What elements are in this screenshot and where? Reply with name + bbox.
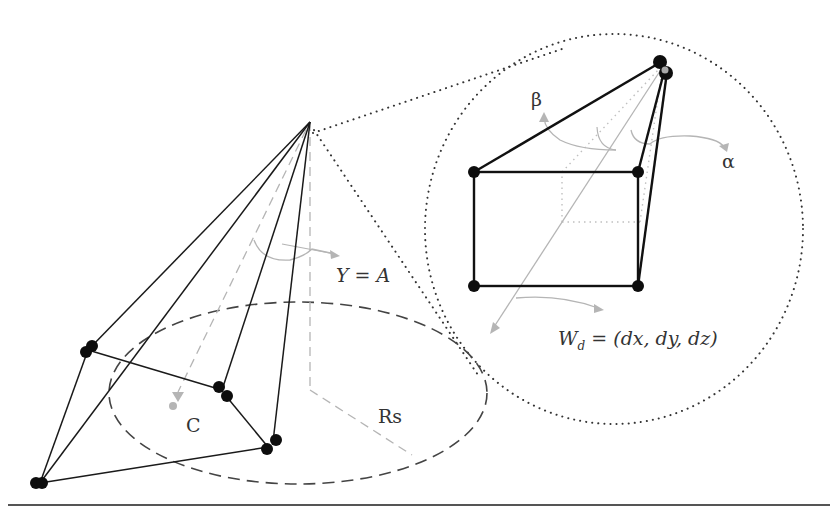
beta-arrow [544,118,616,150]
vertex-point [80,346,92,358]
apex-highlight-point [662,67,669,74]
label-alpha: α [722,150,735,172]
vertex-point [468,280,480,292]
vertex-point [632,280,644,292]
pyramid-vertices [30,340,282,489]
vertex-point [468,166,480,178]
magnifier-connector [313,48,565,375]
vertex-point [270,434,282,446]
guide-lines [178,122,412,455]
base-ellipse [109,302,487,484]
label-rs: Rs [378,405,402,427]
vertex-point [261,443,273,455]
centroid-point [169,402,177,410]
pyramid-diagram: Y = A C Rs β α Wd = (dx, dy, dz) [0,0,838,524]
label-y-equals-a: Y = A [336,264,390,286]
magnified-region-circle [425,34,803,424]
label-wd: Wd = (dx, dy, dz) [558,327,718,353]
label-c: C [186,414,201,436]
wd-arrow [516,297,598,308]
vertex-point [632,166,644,178]
label-beta: β [531,88,542,110]
vertex-point [36,477,48,489]
vertex-point [213,381,225,393]
c-arrowhead [172,392,184,402]
vertex-point [221,390,233,402]
